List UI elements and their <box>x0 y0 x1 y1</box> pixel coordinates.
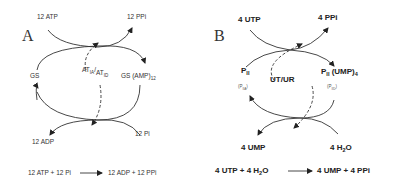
label-4-h2o: 4 H2O <box>330 143 352 153</box>
label-piid: (PIID) <box>327 84 337 91</box>
label-gs-amp: GS (AMP)12 <box>121 72 156 81</box>
label-12-adp: 12 ADP <box>32 138 54 145</box>
arrow-to-adp <box>50 85 140 135</box>
panel-a-letter: A <box>22 27 34 45</box>
arrow-utp-to-ppi <box>250 28 328 50</box>
label-12-atp: 12 ATP <box>37 13 58 20</box>
equation-b-left: 4 UTP + 4 H2O <box>215 166 268 176</box>
arrow-atp-to-ppi <box>48 28 132 47</box>
diagram-arrows <box>0 0 397 188</box>
label-12-ppi: 12 PPi <box>127 13 146 20</box>
arc-h2o-in <box>300 118 338 134</box>
arrow-to-pii-ump <box>290 50 334 66</box>
label-4-ppi: 4 PPi <box>318 13 338 22</box>
label-gs: GS <box>30 72 39 79</box>
equation-a-right: 12 ADP + 12 PPi <box>108 169 156 176</box>
arrow-to-gs-amp <box>98 46 145 63</box>
arrow-to-pii <box>250 96 300 118</box>
arc-pi-in <box>98 120 140 135</box>
label-at-ia-id: ATIA/ATID <box>82 66 108 75</box>
arc-gs-bottom <box>37 92 98 120</box>
equation-b-right: 4 UMP + 4 PPi <box>317 166 370 175</box>
label-piia: (PIIA) <box>238 84 248 91</box>
label-ut-ur: UT/UR <box>270 75 294 84</box>
arc-pii-top <box>246 50 290 67</box>
label-4-ump: 4 UMP <box>241 143 265 152</box>
label-pii: PII <box>241 66 249 76</box>
equation-a-left: 12 ATP + 12 Pi <box>28 169 71 176</box>
dashed-at-down <box>92 85 101 125</box>
label-pii-ump: PII (UMP)4 <box>321 67 358 77</box>
label-12-pi: 12 Pi <box>135 130 150 137</box>
label-4-utp: 4 UTP <box>238 15 261 24</box>
panel-b-letter: B <box>214 27 225 45</box>
dashed-ur-down <box>294 86 313 128</box>
